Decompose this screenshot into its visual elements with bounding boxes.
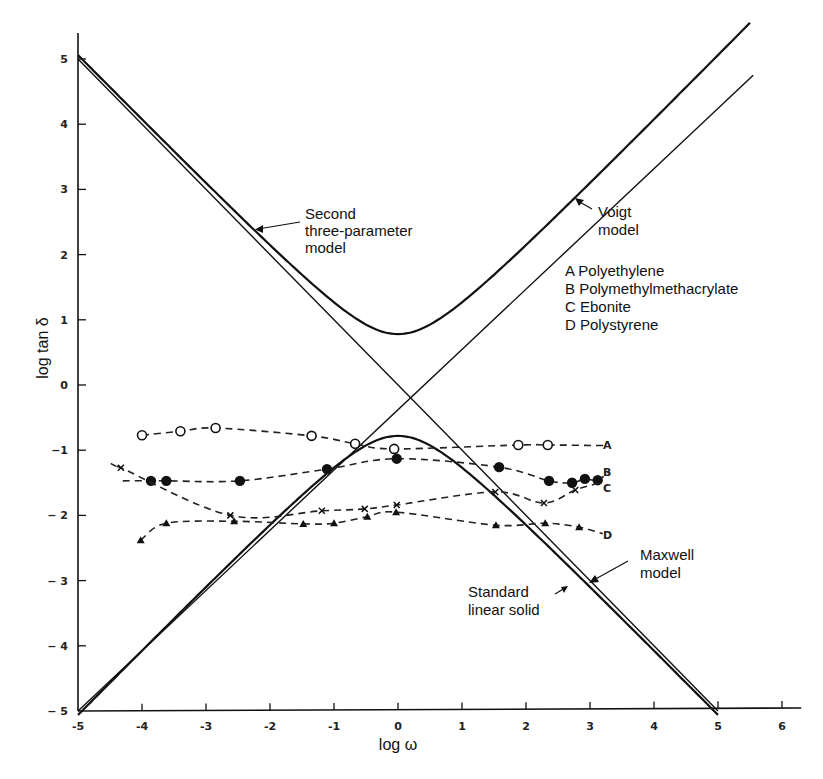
series-label-b: B: [603, 466, 611, 479]
cross-marker: [118, 465, 124, 471]
open-circle-marker: [390, 444, 399, 453]
y-tick-label: 0: [60, 379, 68, 392]
annotation-line: three-parameter: [305, 222, 413, 239]
open-circle-marker: [211, 424, 220, 433]
open-circle-marker: [176, 427, 185, 436]
y-axis-title: log tan δ: [34, 317, 51, 378]
series-a: [138, 424, 607, 454]
y-tick-label: − 3: [47, 575, 68, 588]
legend-entry-c: C Ebonite: [565, 298, 631, 315]
series-curve: [141, 512, 603, 540]
series-label-d: D: [603, 529, 612, 542]
filled-circle-marker: [544, 476, 554, 486]
x-axis-line: [78, 708, 801, 711]
filled-circle-marker: [567, 478, 577, 488]
x-tick-label: 4: [650, 720, 658, 733]
filled-circle-marker: [494, 462, 504, 472]
annotation-line: linear solid: [468, 601, 540, 618]
filled-circle-marker: [322, 464, 332, 474]
x-tick-label: -2: [264, 720, 276, 733]
legend-entry-b: B Polymethylmethacrylate: [565, 280, 738, 297]
series-label-a: A: [603, 439, 612, 452]
x-tick-label: -5: [72, 720, 84, 733]
maxwell-model-curve: [78, 59, 718, 711]
voigt-model-curve: [78, 75, 753, 711]
x-tick-label: -3: [200, 720, 212, 733]
legend-entry-d: D Polystyrene: [565, 316, 658, 333]
filled-circle-marker: [392, 453, 402, 463]
y-tick-label: 3: [60, 183, 68, 196]
open-circle-marker: [138, 431, 147, 440]
annotation-line: Standard: [468, 583, 529, 600]
x-tick-label: -1: [328, 720, 340, 733]
open-circle-marker: [307, 431, 316, 440]
x-tick-label: -4: [136, 720, 149, 733]
series-c: [111, 464, 599, 519]
y-tick-label: −1: [51, 444, 68, 457]
y-tick-label: 2: [60, 249, 68, 262]
model-curves: [78, 23, 753, 715]
annotation-line: Maxwell: [640, 546, 694, 563]
annotation-line: model: [598, 221, 639, 238]
annotation-standard-linear-solid: Standard linear solid: [468, 583, 568, 618]
annotation-second-three-parameter-model: Second three-parameter model: [255, 205, 413, 256]
annotation-maxwell-model: Maxwell model: [589, 546, 694, 583]
triangle-marker: [575, 523, 583, 530]
series-d: [137, 508, 603, 543]
filled-circle-marker: [235, 476, 245, 486]
open-circle-marker: [543, 440, 552, 449]
x-tick-label: 6: [778, 720, 786, 733]
open-circle-marker: [351, 439, 360, 448]
series-curve: [111, 464, 599, 518]
series-b: [123, 453, 609, 488]
open-circle-marker: [514, 440, 523, 449]
cross-marker: [572, 487, 578, 493]
x-tick-label: 0: [394, 720, 402, 733]
filled-circle-marker: [161, 476, 171, 486]
standard-linear-solid-curve: [78, 436, 718, 715]
chart-figure: -5-4-3-2-10123456− 5− 4− 3− 2−1012345 lo…: [0, 0, 823, 779]
triangle-marker: [162, 519, 170, 526]
y-tick-label: 5: [60, 53, 68, 66]
x-tick-label: 5: [714, 720, 722, 733]
y-tick-label: 1: [60, 314, 68, 327]
data-series: [111, 424, 609, 544]
annotation-line: Second: [305, 205, 356, 222]
x-tick-label: 1: [458, 720, 466, 733]
annotation-line: model: [640, 564, 681, 581]
legend: A Polyethylene B Polymethylmethacrylate …: [565, 262, 738, 333]
y-tick-label: 4: [60, 118, 68, 131]
annotation-voigt-model: Voigt model: [575, 198, 639, 238]
series-curve: [123, 459, 609, 483]
y-tick-label: − 4: [47, 640, 68, 653]
y-tick-label: − 2: [47, 509, 68, 522]
triangle-marker: [363, 513, 371, 520]
series-label-c: C: [603, 482, 611, 495]
x-tick-label: 3: [586, 720, 594, 733]
x-tick-label: 2: [522, 720, 530, 733]
annotation-line: model: [305, 239, 346, 256]
x-axis-title: log ω: [379, 736, 417, 753]
legend-entry-a: A Polyethylene: [565, 262, 664, 279]
y-tick-label: − 5: [47, 705, 68, 718]
filled-circle-marker: [580, 474, 590, 484]
annotation-line: Voigt: [598, 203, 632, 220]
